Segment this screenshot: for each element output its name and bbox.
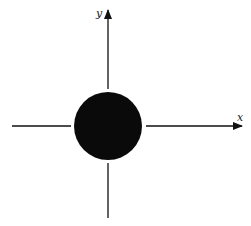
coordinate-diagram: x y	[0, 0, 251, 226]
y-axis-label: y	[95, 7, 103, 20]
filled-disk	[74, 92, 142, 160]
x-axis-label: x	[237, 111, 244, 124]
